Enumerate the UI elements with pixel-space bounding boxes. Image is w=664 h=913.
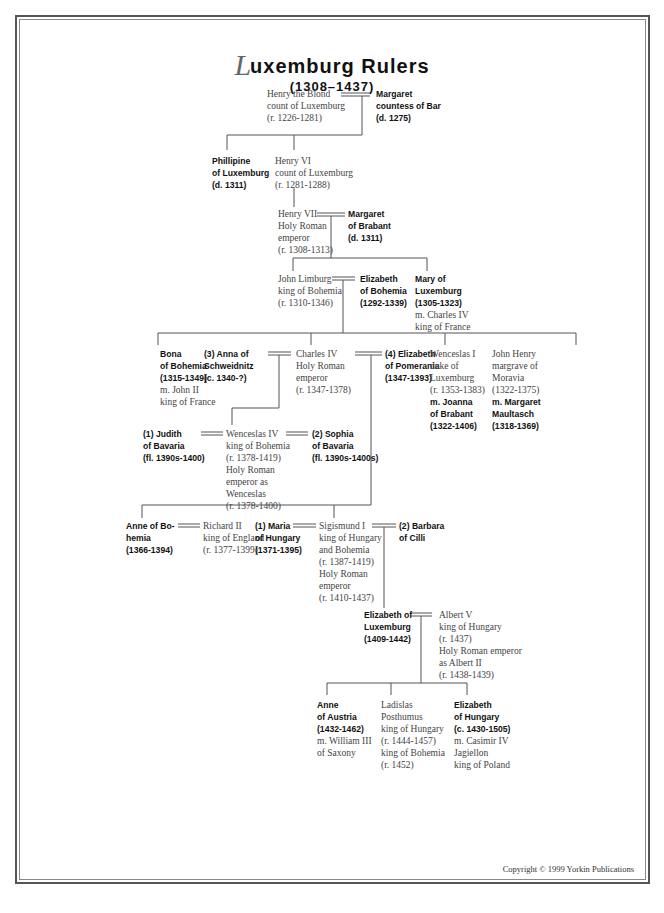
- name-cont: Schweidnitz: [204, 360, 254, 372]
- person-anne-of-bohemia: Anne of Bo-hemia(1366-1394): [126, 520, 175, 556]
- name: Margaret: [376, 88, 441, 100]
- title: count of Luxemburg: [275, 167, 353, 179]
- person-maria-of-hungary: (1) Mariaof Hungary(1371-1395): [255, 520, 302, 556]
- marriage: m. Casimir IV: [454, 735, 510, 747]
- title: count of Luxemburg: [267, 100, 345, 112]
- name: John Henry: [492, 348, 541, 360]
- title2: Holy Roman emperor: [439, 645, 522, 657]
- person-anne-of-austria: Anneof Austria(1432-1462)m. William IIIo…: [317, 699, 372, 759]
- copyright-notice: Copyright © 1999 Yorkin Publications: [503, 864, 634, 874]
- name: Charles IV: [296, 348, 351, 360]
- title-cont: Moravia: [492, 372, 541, 384]
- dates2: (r. 1410-1437): [319, 592, 382, 604]
- dates2: (r. 1438-1439): [439, 669, 522, 681]
- person-charles-iv: Charles IVHoly Romanemperor(r. 1347-1378…: [296, 348, 351, 396]
- title: king of Bohemia: [226, 440, 290, 452]
- spouse-dates: (1322-1406): [430, 420, 485, 432]
- marriage: m. Charles IV: [415, 309, 470, 321]
- title: king of Hungary: [319, 532, 382, 544]
- dates2: (r. 1378-1400): [226, 500, 290, 512]
- person-elizabeth-of-luxemburg: Elizabeth ofLuxemburg(1409-1442): [364, 609, 412, 645]
- dates2: (r. 1452): [381, 759, 445, 771]
- title2-cont: emperor as: [226, 476, 290, 488]
- dates: (1322-1375): [492, 384, 541, 396]
- dates: (1292-1339): [360, 297, 407, 309]
- dates: (1371-1395): [255, 544, 302, 556]
- dates: (c. 1340-?): [204, 372, 254, 384]
- title: of Brabant: [348, 220, 391, 232]
- person-wenceslas-iv: Wenceslas IVking of Bohemia(r. 1378-1419…: [226, 428, 290, 512]
- person-henry-the-blond: Henry the Blondcount of Luxemburg(r. 122…: [267, 88, 345, 124]
- name-cont: of Cilli: [399, 532, 444, 544]
- dates: (r. 1281-1288): [275, 179, 353, 191]
- name: Mary of: [415, 273, 470, 285]
- name: Phillipine: [212, 155, 269, 167]
- name-cont: of Bavaria: [143, 440, 205, 452]
- dates: (r. 1353-1383): [430, 384, 485, 396]
- person-phillipine: Phillipineof Luxemburg(d. 1311): [212, 155, 269, 191]
- title: king of Hungary: [381, 723, 445, 735]
- dates: (d. 1275): [376, 112, 441, 124]
- dates: (1366-1394): [126, 544, 175, 556]
- marriage-cont: king of France: [415, 321, 470, 333]
- marriage-cont2: king of Poland: [454, 759, 510, 771]
- dates: (fl. 1390s-1400): [143, 452, 205, 464]
- title: Holy Roman: [296, 360, 351, 372]
- name: Margaret: [348, 208, 391, 220]
- dates: (r. 1378-1419): [226, 452, 290, 464]
- dates: (r. 1310-1346): [278, 297, 342, 309]
- title: Holy Roman: [278, 220, 333, 232]
- title: duke of: [430, 360, 485, 372]
- title-cont: emperor: [296, 372, 351, 384]
- title2: Holy Roman: [226, 464, 290, 476]
- marriage: m. William III: [317, 735, 372, 747]
- name: (2) Sophia: [312, 428, 378, 440]
- person-albert-v: Albert Vking of Hungary(r. 1437)Holy Rom…: [439, 609, 522, 681]
- title2-cont2: Wenceslas: [226, 488, 290, 500]
- person-henry-vi: Henry VIcount of Luxemburg(r. 1281-1288): [275, 155, 353, 191]
- marriage-cont: Maultasch: [492, 408, 541, 420]
- dates: (r. 1226-1281): [267, 112, 345, 124]
- name-cont: of Bavaria: [312, 440, 378, 452]
- dates: (1409-1442): [364, 633, 412, 645]
- name: Anne: [317, 699, 372, 711]
- person-john-henry: John Henrymargrave ofMoravia(1322-1375)m…: [492, 348, 541, 432]
- title: margrave of: [492, 360, 541, 372]
- title-cont: emperor: [278, 232, 333, 244]
- marriage: m. Joanna: [430, 396, 485, 408]
- name-cont: Posthumus: [381, 711, 445, 723]
- spouse-dates: (1318-1369): [492, 420, 541, 432]
- person-sophia-of-bavaria: (2) Sophiaof Bavaria(fl. 1390s-1400s): [312, 428, 378, 464]
- marriage-cont: Jagiellon: [454, 747, 510, 759]
- person-sigismund-i: Sigismund Iking of Hungaryand Bohemia(r.…: [319, 520, 382, 604]
- name: Ladislas: [381, 699, 445, 711]
- title: king of Hungary: [439, 621, 522, 633]
- name: Sigismund I: [319, 520, 382, 532]
- dates: (1432-1462): [317, 723, 372, 735]
- name: (3) Anna of: [204, 348, 254, 360]
- person-henry-vii: Henry VIIHoly Romanemperor(r. 1308-1313): [278, 208, 333, 256]
- person-mary-of-luxemburg: Mary ofLuxemburg(1305-1323)m. Charles IV…: [415, 273, 470, 333]
- name-cont: of Austria: [317, 711, 372, 723]
- name: Wenceslas I: [430, 348, 485, 360]
- title2-cont: emperor: [319, 580, 382, 592]
- name-cont: hemia: [126, 532, 175, 544]
- dates: (r. 1444-1457): [381, 735, 445, 747]
- person-elizabeth-of-hungary: Elizabethof Hungary(c. 1430-1505)m. Casi…: [454, 699, 510, 771]
- dates: (r. 1437): [439, 633, 522, 645]
- name: (1) Maria: [255, 520, 302, 532]
- name: Wenceslas IV: [226, 428, 290, 440]
- name: Elizabeth: [454, 699, 510, 711]
- name: Elizabeth: [360, 273, 407, 285]
- title: of Bohemia: [360, 285, 407, 297]
- title-cont: and Bohemia: [319, 544, 382, 556]
- person-judith-of-bavaria: (1) Judithof Bavaria(fl. 1390s-1400): [143, 428, 205, 464]
- dates: (fl. 1390s-1400s): [312, 452, 378, 464]
- name-cont: Luxemburg: [415, 285, 470, 297]
- person-john-limburg: John Limburgking of Bohemia(r. 1310-1346…: [278, 273, 342, 309]
- title2: Holy Roman: [319, 568, 382, 580]
- marriage: m. Margaret: [492, 396, 541, 408]
- name: Albert V: [439, 609, 522, 621]
- title-cont: Luxemburg: [430, 372, 485, 384]
- dates: (r. 1387-1419): [319, 556, 382, 568]
